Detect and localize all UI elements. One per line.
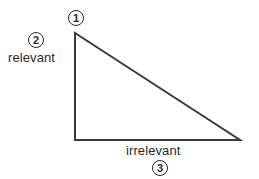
marker-2: 2 (28, 32, 44, 48)
irrelevant-label: irrelevant (126, 143, 180, 158)
marker-3: 3 (152, 160, 168, 176)
marker-1: 1 (68, 10, 84, 26)
triangle-diagram: 1 2 relevant irrelevant 3 (0, 0, 259, 179)
relevant-label: relevant (8, 50, 55, 65)
